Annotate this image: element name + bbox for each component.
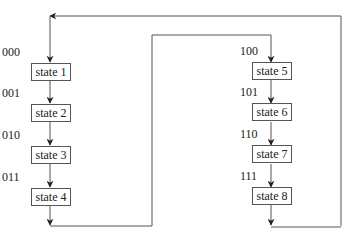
state-code: 000	[2, 46, 20, 58]
state-code: 100	[240, 45, 258, 57]
state-box-4: state 4	[31, 188, 71, 206]
state-box-8: state 8	[252, 187, 292, 205]
state-box-2: state 2	[31, 104, 71, 122]
state-code: 111	[240, 170, 257, 182]
state-code: 011	[2, 171, 20, 183]
state-box-3: state 3	[31, 146, 71, 164]
state-box-1: state 1	[31, 63, 71, 81]
state-code: 010	[2, 129, 20, 141]
state-box-7: state 7	[252, 145, 292, 163]
return-loop-line	[50, 16, 341, 226]
state-box-5: state 5	[252, 62, 292, 80]
state-box-6: state 6	[252, 103, 292, 121]
cross-link-line	[50, 35, 271, 226]
state-code: 110	[240, 128, 258, 140]
state-code: 001	[2, 87, 20, 99]
state-code: 101	[240, 86, 258, 98]
